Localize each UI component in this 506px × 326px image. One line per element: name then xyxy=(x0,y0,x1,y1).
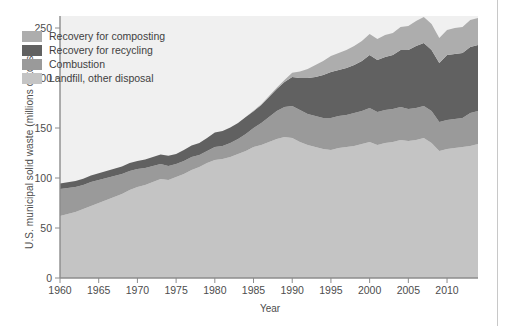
legend-swatch-icon xyxy=(22,73,42,84)
x-tick-label: 1970 xyxy=(117,284,157,296)
y-tick-label: 0 xyxy=(18,272,52,284)
legend-item: Landfill, other disposal xyxy=(22,72,165,84)
legend-item: Recovery for composting xyxy=(22,30,165,42)
x-tick-label: 2005 xyxy=(388,284,428,296)
y-tick-label: 150 xyxy=(18,122,52,134)
x-tick-label: 2000 xyxy=(350,284,390,296)
legend-item: Combustion xyxy=(22,58,165,70)
legend-label: Recovery for recycling xyxy=(49,44,153,56)
x-tick-label: 1990 xyxy=(272,284,312,296)
x-tick-label: 1960 xyxy=(40,284,80,296)
legend-label: Combustion xyxy=(49,58,105,70)
legend-swatch-icon xyxy=(22,45,42,56)
x-tick-label: 1985 xyxy=(234,284,274,296)
y-tick-label: 50 xyxy=(18,222,52,234)
page-edge-rule xyxy=(497,0,498,326)
x-tick-label: 2010 xyxy=(427,284,467,296)
x-tick-label: 1965 xyxy=(79,284,119,296)
legend-label: Landfill, other disposal xyxy=(49,72,153,84)
legend-swatch-icon xyxy=(22,31,42,42)
x-tick-label: 1995 xyxy=(311,284,351,296)
x-tick-label: 1980 xyxy=(195,284,235,296)
chart-legend: Recovery for compostingRecovery for recy… xyxy=(22,30,165,86)
legend-label: Recovery for composting xyxy=(49,30,165,42)
legend-swatch-icon xyxy=(22,59,42,70)
y-tick-label: 100 xyxy=(18,172,52,184)
x-tick-label: 1975 xyxy=(156,284,196,296)
chart-figure: U.S. municipal solid waste (millions of … xyxy=(0,0,506,326)
legend-item: Recovery for recycling xyxy=(22,44,165,56)
